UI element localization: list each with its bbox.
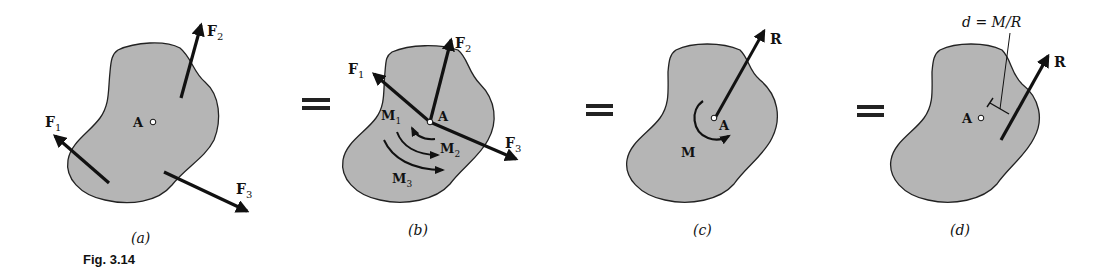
panel-label-a: (a) xyxy=(131,230,150,246)
force-label-f3: F3 xyxy=(505,135,521,154)
resultant-label: R xyxy=(770,31,782,47)
panel-label-d: (d) xyxy=(950,222,970,238)
panel-label-b: (b) xyxy=(408,222,428,238)
force-vector-f3-a xyxy=(164,172,247,211)
panel-d: A R d = M/R (d) xyxy=(891,14,1066,238)
force-label-f1: F1 xyxy=(45,114,61,133)
resultant-label: R xyxy=(1054,54,1066,70)
point-a-marker xyxy=(978,115,984,121)
equals-sign-3 xyxy=(857,105,884,117)
panel-c: A R M (c) xyxy=(627,31,782,238)
point-label: A xyxy=(437,109,449,124)
panel-b: A F2 F1 F3 M1 M2 M3 (b) xyxy=(343,35,522,238)
equivalent-force-systems-figure: A F2 F1 F3 (a) Fig. 3.14 A F2 F1 F3 M1 M… xyxy=(0,0,1104,273)
panel-a: A F2 F1 F3 (a) Fig. 3.14 xyxy=(45,23,252,267)
distance-formula: d = M/R xyxy=(962,14,1022,30)
panel-label-c: (c) xyxy=(693,222,712,238)
moment-label: M xyxy=(681,145,695,160)
point-a-marker xyxy=(150,119,156,125)
figure-caption: Fig. 3.14 xyxy=(83,252,136,267)
rigid-body-c xyxy=(627,44,778,202)
point-label: A xyxy=(961,111,973,126)
equals-sign-2 xyxy=(586,104,613,116)
point-label: A xyxy=(132,115,144,130)
force-label-f1: F1 xyxy=(348,61,364,80)
point-a-marker xyxy=(711,115,717,121)
force-label-f2: F2 xyxy=(207,23,223,42)
point-a-marker xyxy=(427,119,433,125)
rigid-body-a xyxy=(68,43,219,203)
equals-sign-1 xyxy=(302,98,330,110)
rigid-body-b xyxy=(343,46,494,203)
point-label: A xyxy=(718,118,730,133)
force-label-f3: F3 xyxy=(236,181,252,200)
